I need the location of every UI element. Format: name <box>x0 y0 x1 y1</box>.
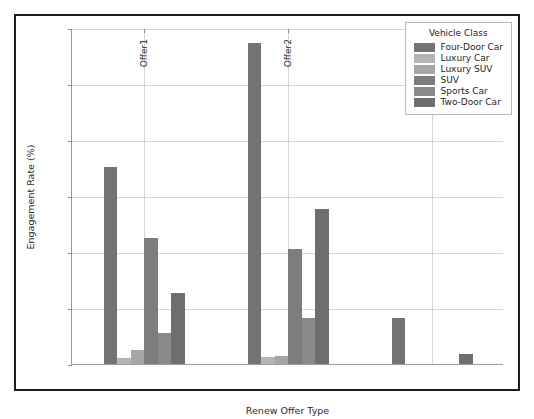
legend-item-label: Four-Door Car <box>441 42 503 52</box>
legend-item-label: Sports Car <box>441 86 488 96</box>
y-tick-mark <box>68 141 72 142</box>
y-tick-mark <box>68 85 72 86</box>
legend-item[interactable]: Two-Door Car <box>414 97 503 107</box>
y-axis-label: Engagement Rate (%) <box>25 144 36 249</box>
legend-title: Vehicle Class <box>414 28 503 38</box>
x-tick-mark <box>288 29 289 33</box>
legend-swatch-icon <box>414 43 435 52</box>
legend-item-label: Luxury Car <box>441 53 490 63</box>
legend-swatch-icon <box>414 54 435 63</box>
legend-swatch-icon <box>414 76 435 85</box>
legend-item-label: Two-Door Car <box>441 97 501 107</box>
bar <box>117 358 131 364</box>
legend-rows: Four-Door CarLuxury CarLuxury SUVSUVSpor… <box>414 42 503 107</box>
bar <box>315 209 329 364</box>
bar <box>275 356 289 364</box>
y-tick-mark <box>68 197 72 198</box>
legend-item[interactable]: Luxury SUV <box>414 64 503 74</box>
legend-item-label: Luxury SUV <box>441 64 493 74</box>
legend-swatch-icon <box>414 87 435 96</box>
bar <box>144 238 158 364</box>
bar <box>459 354 473 364</box>
bar <box>158 333 172 364</box>
y-tick-mark <box>68 253 72 254</box>
legend-item[interactable]: Sports Car <box>414 86 503 96</box>
x-tick-label: Offer1 <box>139 39 149 67</box>
bar <box>171 293 185 364</box>
y-tick-mark <box>68 309 72 310</box>
bar <box>302 318 316 364</box>
x-tick-label: Offer2 <box>283 39 293 67</box>
legend-item-label: SUV <box>441 75 459 85</box>
legend: Vehicle Class Four-Door CarLuxury CarLux… <box>405 22 512 115</box>
y-tick-mark <box>68 365 72 366</box>
bar <box>104 167 118 364</box>
legend-swatch-icon <box>414 98 435 107</box>
legend-item[interactable]: Four-Door Car <box>414 42 503 52</box>
x-axis-label: Renew Offer Type <box>72 405 503 416</box>
figure-panel: 024681012 Offer1Offer2Offer3 Engagement … <box>14 14 520 391</box>
legend-swatch-icon <box>414 65 435 74</box>
x-tick-mark <box>144 29 145 33</box>
bar <box>288 249 302 364</box>
bar <box>261 357 275 364</box>
legend-item[interactable]: Luxury Car <box>414 53 503 63</box>
bar <box>392 318 406 364</box>
y-tick-mark <box>68 29 72 30</box>
legend-item[interactable]: SUV <box>414 75 503 85</box>
bar <box>248 43 262 364</box>
bar <box>131 350 145 364</box>
